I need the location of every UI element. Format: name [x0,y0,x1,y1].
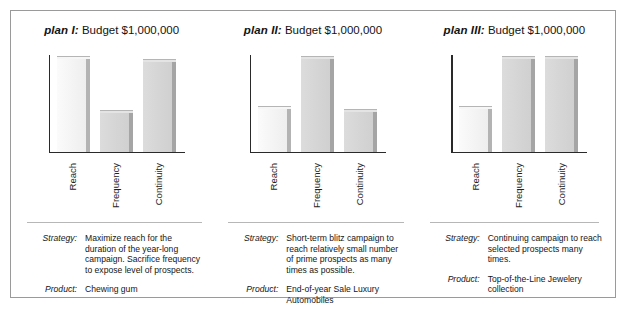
bar-continuity-1 [143,59,176,152]
panel-description-2: Strategy: Short-term blitz campaign to r… [226,233,405,315]
bar-frequency-3 [502,56,535,152]
plan-budget-3: Budget $1,000,000 [488,24,585,36]
bar-reach-2 [258,106,291,152]
category-labels-1: Reach Frequency Continuity [11,163,212,219]
plan-heading-1: plan I: Budget $1,000,000 [11,23,212,37]
bar-continuity-3 [545,56,578,152]
x-axis-line-1 [49,152,185,153]
strategy-text-3: Continuing campaign to reach selected pr… [488,233,607,265]
plan-name-3: plan III: [444,24,485,36]
plan-panel-1: plan I: Budget $1,000,000 [11,11,212,297]
category-label-reach-3: Reach [471,163,481,190]
figure-frame: plan I: Budget $1,000,000 [10,10,616,298]
bar-reach-3 [459,106,492,152]
product-text-2: End-of-year Sale Luxury Automobiles [286,284,405,305]
panel-divider-2 [228,222,403,223]
bar-frequency-1 [100,110,133,152]
product-text-3: Top-of-the-Line Jewelery collection [488,274,607,295]
bar-continuity-2 [344,109,377,152]
category-label-frequency-3: Frequency [514,163,524,208]
plan-name-1: plan I: [44,24,79,36]
product-row-3: Product: Top-of-the-Line Jewelery collec… [428,274,607,295]
x-axis-line-3 [451,152,587,153]
strategy-label-1: Strategy: [25,233,85,244]
plan-panel-2: plan II: Budget $1,000,000 [212,11,413,297]
y-axis-line-2 [250,55,251,152]
bar-group-2 [256,56,382,152]
category-label-frequency-1: Frequency [111,163,121,208]
product-row-1: Product: Chewing gum [25,284,204,295]
bar-group-3 [457,56,583,152]
panel-divider-3 [430,222,599,223]
strategy-label-3: Strategy: [428,233,488,244]
plan-name-2: plan II: [244,24,282,36]
y-axis-line-3 [451,55,452,152]
product-label-3: Product: [428,274,488,285]
x-axis-line-2 [250,152,386,153]
category-label-reach-1: Reach [68,163,78,190]
plan-panels: plan I: Budget $1,000,000 [11,11,615,297]
strategy-row-1: Strategy: Maximize reach for the duratio… [25,233,204,275]
plan-heading-3: plan III: Budget $1,000,000 [414,23,615,37]
category-label-frequency-2: Frequency [312,163,322,208]
category-labels-3: Reach Frequency Continuity [414,163,615,219]
plan-heading-2: plan II: Budget $1,000,000 [212,23,413,37]
bar-chart-2 [212,51,413,163]
strategy-row-3: Strategy: Continuing campaign to reach s… [428,233,607,265]
y-axis-line-1 [49,55,50,152]
product-label-2: Product: [226,284,286,295]
bar-chart-1 [11,51,212,163]
bar-chart-3 [414,51,615,163]
category-labels-2: Reach Frequency Continuity [212,163,413,219]
plan-budget-1: Budget $1,000,000 [82,24,179,36]
product-row-2: Product: End-of-year Sale Luxury Automob… [226,284,405,305]
product-text-1: Chewing gum [85,284,204,295]
category-label-continuity-1: Continuity [154,163,164,205]
product-label-1: Product: [25,284,85,295]
strategy-row-2: Strategy: Short-term blitz campaign to r… [226,233,405,275]
bar-frequency-2 [301,56,334,152]
plan-budget-2: Budget $1,000,000 [285,24,382,36]
strategy-text-1: Maximize reach for the duration of the y… [85,233,204,275]
category-label-continuity-2: Continuity [355,163,365,205]
category-label-continuity-3: Continuity [557,163,567,205]
plan-panel-3: plan III: Budget $1,000,000 [414,11,615,297]
bar-group-1 [55,56,181,152]
category-label-reach-2: Reach [269,163,279,190]
strategy-text-2: Short-term blitz campaign to reach relat… [286,233,405,275]
panel-description-1: Strategy: Maximize reach for the duratio… [25,233,204,304]
bar-reach-1 [57,56,90,152]
panel-description-3: Strategy: Continuing campaign to reach s… [428,233,607,304]
strategy-label-2: Strategy: [226,233,286,244]
panel-divider-1 [27,222,202,223]
